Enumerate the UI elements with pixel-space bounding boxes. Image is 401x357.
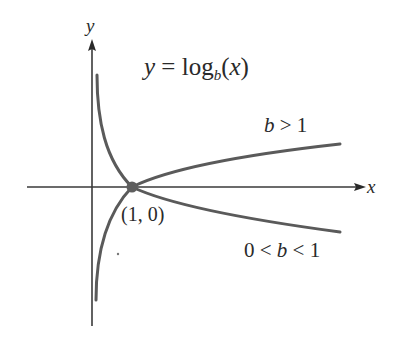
scan-artifact — [117, 253, 119, 255]
label-b-greater-than-1: b > 1 — [264, 115, 307, 136]
title-y: y — [144, 53, 155, 80]
label-b-between-0-and-1: 0 < b < 1 — [244, 240, 320, 261]
title-base-subscript: b — [214, 67, 222, 83]
title-equals-log: = log — [155, 53, 214, 80]
title-argument: (x) — [221, 53, 249, 80]
y-axis-label: y — [86, 16, 94, 35]
x-axis-label: x — [367, 177, 375, 196]
point-marker — [127, 182, 138, 193]
log-function-diagram: y x y = logb(x) b > 1 0 < b < 1 (1, 0) — [0, 0, 401, 357]
point-label: (1, 0) — [121, 204, 164, 224]
function-title: y = logb(x) — [144, 54, 249, 79]
